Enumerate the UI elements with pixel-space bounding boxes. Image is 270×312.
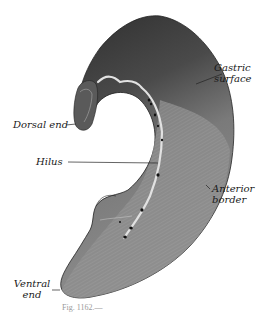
gastric-surface-label: Gastric surface — [208, 62, 252, 84]
anterior-border-label-line1: Anterior — [212, 183, 254, 194]
anatomical-figure: Gastric surface Dorsal end Hilus Anterio… — [0, 0, 270, 312]
texture-hatching — [62, 100, 230, 298]
figure-caption: Fig. 1162.— — [62, 303, 102, 312]
dorsal-end-lobe — [74, 81, 98, 131]
ventral-end-label-line2: end — [12, 289, 52, 300]
dorsal-end-label: Dorsal end — [13, 119, 68, 130]
anterior-border-label-line2: border — [212, 194, 254, 205]
ventral-end-label: Ventral end — [12, 278, 52, 300]
anterior-border-label: Anterior border — [212, 183, 254, 205]
hilus-leader — [68, 162, 158, 163]
hilus-label: Hilus — [36, 156, 63, 167]
ventral-end-label-line1: Ventral — [12, 278, 52, 289]
gastric-surface-label-line1: Gastric — [208, 62, 252, 73]
gastric-surface-label-line2: surface — [208, 73, 252, 84]
